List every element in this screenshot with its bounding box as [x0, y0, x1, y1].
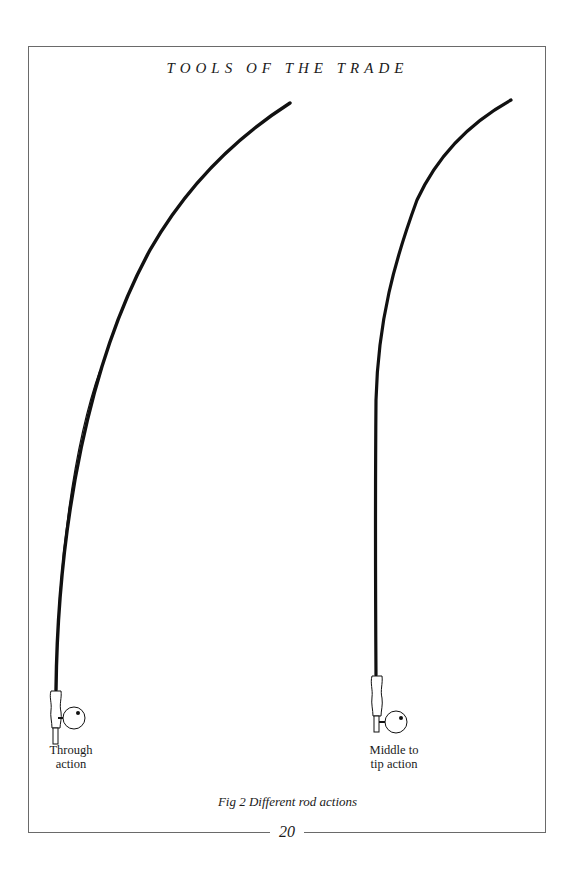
rod-label-through-action: Through action [36, 743, 106, 771]
figure-caption: Fig 2 Different rod actions [0, 794, 575, 810]
rod-label-line: tip action [356, 757, 432, 771]
rod-label-line: Middle to [356, 743, 432, 757]
rod-label-line: action [36, 757, 106, 771]
rod-actions-figure [0, 0, 575, 872]
rod-label-line: Through [36, 743, 106, 757]
fly-rod-through-action-icon [50, 103, 290, 744]
rod-label-middle-to-tip-action: Middle to tip action [356, 743, 432, 771]
fly-rod-middle-to-tip-action-icon [371, 100, 511, 733]
